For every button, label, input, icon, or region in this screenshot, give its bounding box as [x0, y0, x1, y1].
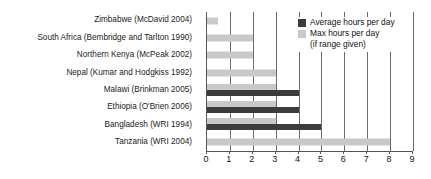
gridline [413, 12, 414, 151]
bar-row [207, 116, 413, 133]
x-tick-label: 4 [295, 155, 300, 164]
category-label: Tanzania (WRI 2004) [0, 134, 196, 151]
bar-chart: Zimbabwe (McDavid 2004) South Africa (Be… [0, 0, 431, 179]
x-tick-label: 6 [341, 155, 346, 164]
category-label: Zimbabwe (McDavid 2004) [0, 12, 196, 29]
bar-max-hours [207, 139, 390, 146]
bar-row [207, 82, 413, 99]
bar-max-hours [207, 52, 253, 59]
category-label: Northern Kenya (McPeak 2002) [0, 47, 196, 64]
x-tick-label: 0 [203, 155, 208, 164]
x-tick-label: 1 [226, 155, 231, 164]
chart-legend: Average hours per day Max hours per day … [297, 17, 397, 52]
legend-item-average: Average hours per day [298, 18, 395, 28]
bar-average-hours [207, 124, 321, 130]
legend-note: (if range given) [310, 40, 395, 50]
bar-average-hours [207, 90, 299, 96]
category-label: Nepal (Kumar and Hodgkiss 1992) [0, 64, 196, 81]
x-tick-label: 2 [249, 155, 254, 164]
category-label: Bangladesh (WRI 1994) [0, 116, 196, 133]
x-tick-label: 5 [318, 155, 323, 164]
bar-average-hours [207, 107, 299, 113]
legend-label: Average hours per day [310, 18, 395, 28]
category-label: Ethiopia (O'Brien 2006) [0, 99, 196, 116]
bar-row [207, 64, 413, 81]
legend-swatch-icon [298, 30, 306, 38]
category-label: Malawi (Brinkman 2005) [0, 82, 196, 99]
bar-max-hours [207, 69, 276, 76]
x-tick-label: 3 [272, 155, 277, 164]
x-tick-label: 8 [387, 155, 392, 164]
bar-row [207, 134, 413, 151]
x-axis: 0123456789 [206, 151, 412, 173]
bar-max-hours [207, 17, 218, 24]
x-tick-label: 7 [364, 155, 369, 164]
legend-item-max: Max hours per day [298, 29, 395, 39]
bar-row [207, 99, 413, 116]
bar-max-hours [207, 35, 253, 42]
legend-label: Max hours per day [310, 29, 379, 39]
category-label-column: Zimbabwe (McDavid 2004) South Africa (Be… [0, 12, 196, 151]
x-tick-label: 9 [409, 155, 414, 164]
legend-swatch-icon [298, 19, 306, 27]
category-label: South Africa (Bembridge and Tarlton 1990… [0, 29, 196, 46]
